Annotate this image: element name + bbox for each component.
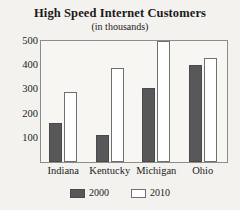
bar-indiana-2000	[49, 123, 62, 162]
bar-michigan-2000	[142, 88, 155, 162]
y-axis-tick-label: 100	[2, 133, 38, 143]
bar-kentucky-2010	[111, 68, 124, 162]
x-axis-tick-label: Indiana	[40, 165, 87, 176]
bar-michigan-2010	[157, 41, 170, 162]
x-axis-tick-label: Ohio	[180, 165, 227, 176]
y-axis-tick-label: 500	[2, 36, 38, 46]
y-axis: 100200300400500	[0, 40, 38, 163]
legend-label: 2000	[89, 188, 109, 198]
x-axis: IndianaKentuckyMichiganOhio	[40, 165, 228, 179]
bar-group	[88, 41, 135, 162]
x-axis-tick-label: Kentucky	[87, 165, 134, 176]
y-axis-tick-label: 200	[2, 109, 38, 119]
legend-item-2010: 2010	[131, 188, 170, 198]
legend-swatch-icon	[70, 189, 85, 198]
bar-chart: High Speed Internet Customers (in thousa…	[0, 0, 240, 210]
legend-label: 2010	[150, 188, 170, 198]
bar-group	[134, 41, 181, 162]
chart-legend: 20002010	[0, 188, 240, 198]
x-axis-tick-label: Michigan	[133, 165, 180, 176]
bar-indiana-2010	[64, 92, 77, 162]
bar-kentucky-2000	[96, 135, 109, 162]
y-axis-tick-label: 400	[2, 60, 38, 70]
bar-ohio-2000	[189, 65, 202, 162]
bars-layer	[41, 41, 227, 162]
bar-group	[41, 41, 88, 162]
chart-title: High Speed Internet Customers	[0, 6, 240, 21]
legend-swatch-icon	[131, 189, 146, 198]
y-axis-tick-label: 300	[2, 84, 38, 94]
bar-ohio-2010	[204, 58, 217, 162]
legend-item-2000: 2000	[70, 188, 109, 198]
chart-subtitle: (in thousands)	[0, 21, 240, 32]
bar-group	[181, 41, 228, 162]
